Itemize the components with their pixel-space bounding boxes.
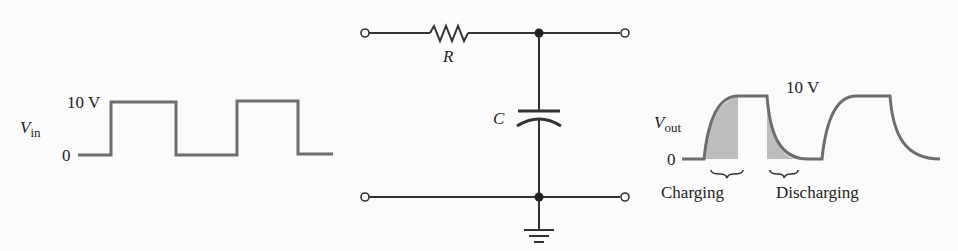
discharging-label: Discharging xyxy=(776,184,859,201)
junction-dot-top xyxy=(535,29,544,38)
resistor-label: R xyxy=(443,48,453,65)
output-high-label: 10 V xyxy=(786,79,819,96)
output-voltage-label: Vout xyxy=(654,114,681,134)
vout-symbol: V xyxy=(654,113,664,132)
input-voltage-label: Vin xyxy=(20,119,41,139)
output-terminal-top xyxy=(621,29,629,37)
vin-symbol: V xyxy=(20,118,30,137)
input-square-wave xyxy=(78,101,333,155)
rc-circuit-diagram: 10 V 0 Vin R C 10 V 0 Vout Charging Disc… xyxy=(0,0,958,251)
rc-circuit xyxy=(369,26,620,242)
input-terminal-top xyxy=(361,29,369,37)
output-low-label: 0 xyxy=(667,151,676,168)
discharging-brace xyxy=(770,170,798,178)
input-low-label: 0 xyxy=(62,147,71,164)
vin-subscript: in xyxy=(30,125,40,140)
capacitor-label: C xyxy=(493,110,504,127)
charging-label: Charging xyxy=(661,184,724,201)
input-high-label: 10 V xyxy=(67,94,100,111)
resistor-symbol xyxy=(430,26,468,41)
charging-brace xyxy=(711,170,743,178)
output-terminal-bottom xyxy=(621,193,629,201)
input-terminal-bottom xyxy=(361,193,369,201)
vout-subscript: out xyxy=(664,120,681,135)
output-rc-wave xyxy=(682,96,940,178)
junction-dot-bottom xyxy=(535,193,544,202)
diagram-graphics xyxy=(0,0,958,251)
